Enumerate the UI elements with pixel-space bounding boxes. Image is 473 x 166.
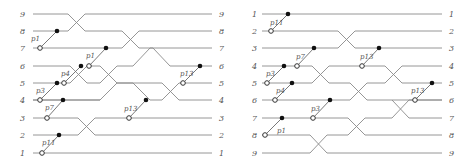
connector-label: p13 (411, 87, 425, 95)
filled-node-icon (104, 46, 109, 51)
open-node-icon (127, 116, 132, 121)
connector-label: p13 (360, 53, 374, 61)
connector-label: p11 (42, 139, 55, 147)
connector-p13: p13 (180, 64, 202, 86)
filled-node-icon (57, 133, 62, 138)
row-label: 6 (449, 96, 454, 105)
connector-p1: p1 (263, 116, 286, 138)
connector-p13: p13 (411, 81, 434, 103)
open-node-icon (273, 98, 278, 103)
row-label: 5 (252, 79, 257, 88)
wire (262, 100, 442, 153)
filled-node-icon (280, 116, 285, 121)
filled-node-icon (328, 98, 333, 103)
connector-p4: p4 (61, 64, 83, 86)
row-label: 2 (251, 27, 257, 36)
wire (33, 31, 212, 48)
row-label: 9 (219, 10, 224, 19)
open-node-icon (38, 46, 43, 51)
row-label: 7 (252, 114, 258, 123)
row-label: 7 (449, 114, 455, 123)
row-label: 5 (219, 79, 224, 88)
open-node-icon (295, 64, 300, 69)
left-network-output-labels: 9 8 7 6 5 4 3 2 1 (218, 10, 225, 158)
open-node-icon (62, 81, 67, 86)
row-label: 3 (20, 114, 25, 123)
right-network-output-labels: 1 2 3 4 5 6 7 8 9 (448, 10, 455, 158)
row-label: 3 (449, 44, 454, 53)
connector-label: p3 (266, 70, 275, 78)
connector-p7: p7 (45, 98, 66, 121)
right-network-input-labels: 1 2 3 4 5 6 7 8 9 (251, 10, 258, 158)
row-label: 4 (251, 62, 257, 71)
row-label: 5 (449, 79, 454, 88)
row-label: 3 (252, 44, 257, 53)
row-label: 2 (448, 27, 454, 36)
connector-label: p7 (45, 104, 54, 112)
diagram-canvas: 9 8 7 6 5 4 3 2 1 9 8 7 6 5 4 3 2 1 (0, 0, 473, 166)
filled-node-icon (286, 12, 291, 17)
open-node-icon (38, 98, 43, 103)
connector-label: p3 (36, 87, 45, 95)
row-label: 1 (449, 10, 454, 19)
row-label: 6 (252, 96, 257, 105)
filled-node-icon (61, 98, 66, 103)
connector-p4: p4 (273, 81, 295, 103)
open-node-icon (45, 116, 50, 121)
row-label: 2 (19, 131, 25, 140)
row-label: 9 (449, 149, 454, 158)
connector-label: p13 (180, 70, 194, 78)
connector-label: p1 (31, 35, 40, 43)
wire (262, 66, 442, 83)
connector-label: p7 (296, 53, 305, 61)
open-node-icon (360, 64, 365, 69)
row-label: 7 (20, 44, 26, 53)
connector-label: p13 (124, 105, 138, 113)
connector-label: p1 (86, 52, 95, 60)
filled-node-icon (198, 64, 203, 69)
wire (33, 118, 212, 135)
connector-label: p1 (277, 127, 286, 135)
open-node-icon (265, 81, 270, 86)
row-label: 6 (20, 62, 25, 71)
connector-p7: p7 (295, 46, 317, 69)
filled-node-icon (55, 29, 60, 34)
wire (33, 14, 212, 66)
wire (262, 118, 442, 135)
filled-node-icon (55, 81, 60, 86)
open-node-icon (87, 64, 92, 69)
filled-node-icon (430, 81, 435, 86)
connector-p13: p13 (360, 46, 382, 69)
row-label: 8 (252, 131, 257, 140)
row-label: 9 (20, 10, 25, 19)
open-node-icon (263, 133, 268, 138)
connector-p1: p1 (31, 29, 59, 51)
connector-p13: p13 (124, 98, 148, 121)
wire (33, 83, 212, 100)
row-label: 1 (219, 149, 224, 158)
row-label: 2 (218, 131, 224, 140)
row-label: 4 (218, 96, 224, 105)
row-label: 4 (448, 62, 454, 71)
filled-node-icon (144, 98, 149, 103)
row-label: 5 (20, 79, 25, 88)
filled-node-icon (377, 46, 382, 51)
filled-node-icon (79, 64, 84, 69)
open-node-icon (269, 29, 274, 34)
connector-p3: p3 (265, 64, 287, 86)
filled-node-icon (282, 64, 287, 69)
connector-p11: p11 (269, 12, 291, 34)
row-label: 8 (219, 27, 224, 36)
row-label: 9 (252, 149, 257, 158)
connector-label: p11 (270, 19, 283, 27)
open-node-icon (413, 98, 418, 103)
connector-p3: p3 (36, 81, 59, 103)
connector-label: p4 (61, 70, 70, 78)
open-node-icon (311, 116, 316, 121)
right-network: 1 2 3 4 5 6 7 8 9 1 2 3 4 5 6 7 8 9 (251, 10, 455, 158)
row-label: 8 (449, 131, 454, 140)
row-label: 3 (219, 114, 224, 123)
left-network: 9 8 7 6 5 4 3 2 1 9 8 7 6 5 4 3 2 1 (19, 10, 225, 158)
row-label: 8 (20, 27, 25, 36)
open-node-icon (40, 151, 45, 156)
